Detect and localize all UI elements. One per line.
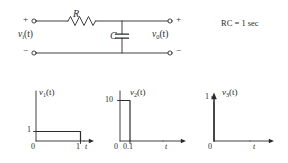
graph3-title: v3(t) [222,88,238,98]
graph2-ytick-10: 10 [105,96,113,104]
input-terminal-positive [32,19,36,23]
graph1-xtick-1: 1 [76,143,80,151]
graph1-xtick-0: 0 [31,143,35,151]
graph2-xtick-0p1: 0.1 [123,143,133,151]
graph1-xaxis-label: t [85,143,87,151]
graph3-t-arrowhead [269,139,274,144]
graph2-t-arrowhead [181,139,186,144]
graph1-ytick-1: 1 [27,126,31,134]
graph2-title-arg: (t) [137,87,146,97]
graph3-impulse-arrowhead [211,93,217,100]
output-terminal-positive [168,19,172,23]
input-voltage-arg: (t) [24,29,33,39]
input-voltage-label: vi(t) [18,30,33,40]
graph1-title-arg: (t) [46,87,55,97]
graph2-pulse-trace [120,101,130,142]
input-polarity-minus: − [23,46,28,55]
resistor-label: R [73,9,79,19]
graph1-pulse-trace [36,132,81,142]
output-polarity-plus: + [176,15,181,24]
graph3-title-arg: (t) [229,87,238,97]
graph2-xtick-0: 0 [114,143,118,151]
graph3-xaxis-label: t [253,143,255,151]
figure-canvas: R C vi(t) v0(t) RC = 1 sec + − + − v1(t)… [0,0,288,163]
output-voltage-arg: (t) [159,29,168,39]
graph1-t-arrowhead [89,139,94,144]
graph3-ytick-1: 1 [205,93,209,101]
input-terminal-negative [32,51,36,55]
graph3-xtick-0: 0 [208,143,212,151]
input-polarity-plus: + [23,15,28,24]
graph1-title: v1(t) [39,88,55,98]
output-terminal-negative [168,51,172,55]
output-polarity-minus: − [176,46,181,55]
graph2-title: v2(t) [130,88,146,98]
output-voltage-label: v0(t) [152,30,168,40]
graph2-xaxis-label: t [165,143,167,151]
time-constant-annotation: RC = 1 sec [221,19,259,28]
capacitor-label: C [110,31,117,41]
